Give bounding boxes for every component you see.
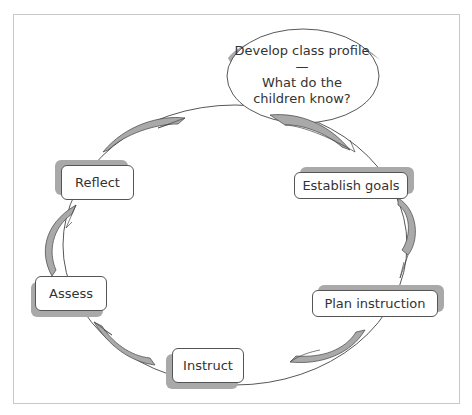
node-develop-class-profile: Develop class profile— What do the child… — [232, 30, 372, 120]
node-label: Instruct — [183, 358, 233, 373]
profile-line-3: children know? — [232, 91, 372, 107]
node-label: Establish goals — [302, 178, 399, 193]
profile-line-1: Develop class profile— — [232, 43, 372, 75]
node-label: Reflect — [75, 175, 120, 190]
node-assess: Assess — [35, 276, 107, 311]
node-plan-instruction: Plan instruction — [312, 290, 438, 317]
profile-line-2: What do the — [232, 75, 372, 91]
node-label: Plan instruction — [324, 296, 425, 311]
arrow-assess-to-reflect — [45, 205, 76, 276]
node-instruct: Instruct — [172, 348, 244, 383]
arrow-instruct-to-assess — [94, 322, 155, 365]
node-reflect: Reflect — [61, 165, 134, 200]
node-establish-goals: Establish goals — [294, 172, 408, 199]
arrow-reflect-to-profile — [103, 117, 185, 152]
node-label: Assess — [49, 286, 93, 301]
